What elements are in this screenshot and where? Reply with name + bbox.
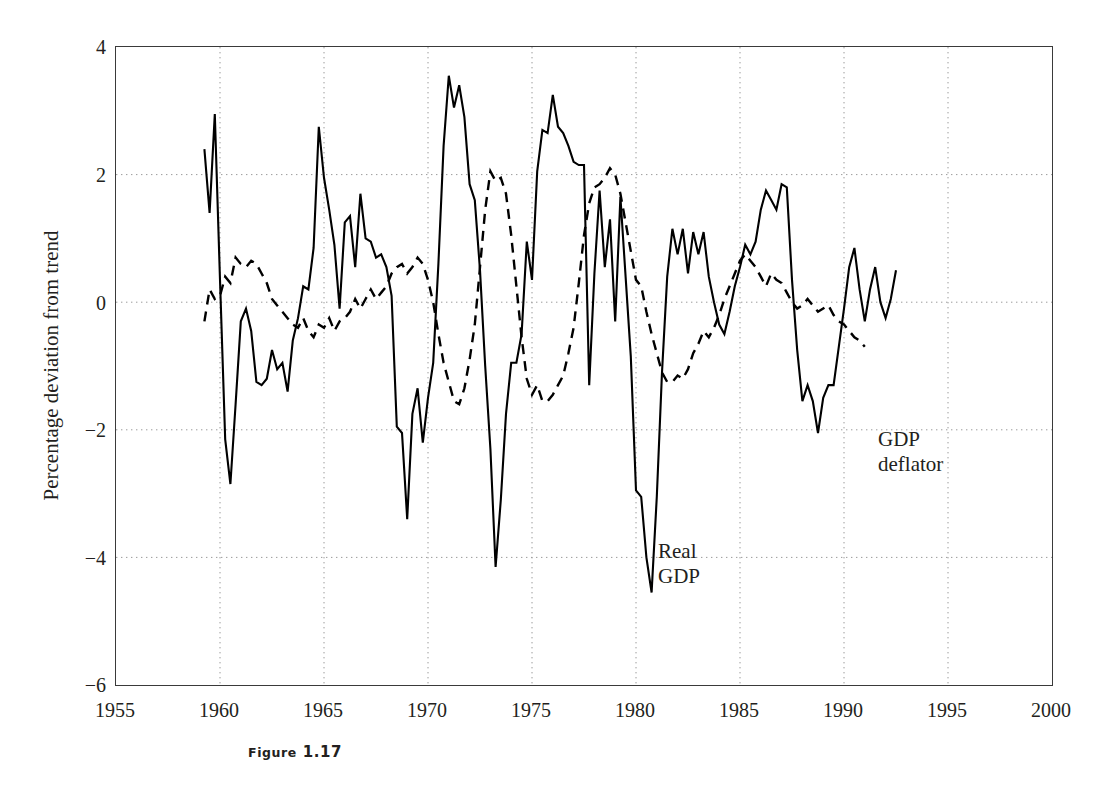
annotation-real-gdp: Real GDP	[658, 539, 700, 589]
x-axis-tick-label: 1965	[278, 700, 368, 720]
x-axis-tick-label: 1980	[590, 700, 680, 720]
y-axis-title: Percentage deviation from trend	[41, 106, 62, 626]
figure-caption-label: Figure	[248, 745, 297, 760]
figure-container: Percentage deviation from trend 4 2 0 −2…	[0, 0, 1118, 785]
x-axis-tick-label: 1995	[902, 700, 992, 720]
x-axis-tick-label: 1975	[486, 700, 576, 720]
series-line-real-gdp	[204, 76, 896, 593]
x-axis-tick-label: 1990	[798, 700, 888, 720]
y-axis-tick-label: −2	[60, 420, 106, 440]
annotation-gdp-deflator-line1: GDP	[878, 427, 920, 451]
x-axis-tick-label: 1970	[382, 700, 472, 720]
x-axis-tick-label: 2000	[1006, 700, 1096, 720]
y-axis-tick-label: 2	[60, 165, 106, 185]
y-axis-tick-label: −4	[60, 548, 106, 568]
x-axis-tick-label: 1985	[694, 700, 784, 720]
figure-caption: Figure 1.17	[248, 743, 342, 761]
figure-caption-number: 1.17	[303, 743, 342, 761]
annotation-gdp-deflator-line2: deflator	[878, 452, 943, 476]
x-axis-tick-label: 1960	[174, 700, 264, 720]
annotation-real-gdp-line2: GDP	[658, 564, 700, 588]
plot-area: Real GDP GDP deflator	[115, 46, 1053, 686]
y-axis-tick-label: −6	[60, 675, 106, 695]
y-axis-tick-label: 4	[60, 37, 106, 57]
x-axis-tick-label: 1955	[70, 700, 160, 720]
annotation-real-gdp-line1: Real	[658, 539, 696, 563]
y-axis-tick-label: 0	[60, 293, 106, 313]
annotation-gdp-deflator: GDP deflator	[878, 427, 943, 477]
gridlines	[116, 47, 1052, 685]
chart-canvas	[116, 47, 1052, 685]
